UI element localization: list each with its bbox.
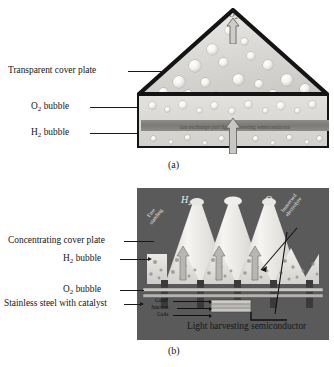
figure-container: O2 ion exchange part light harvesting se… [0, 0, 334, 367]
bubble [317, 136, 322, 141]
leader-junction [177, 308, 209, 309]
bubble [185, 135, 190, 140]
bubble [245, 101, 252, 108]
panel-b: H2 O2 Free standing Immersed electrolyte… [137, 188, 329, 340]
label-junction: Junction [151, 305, 168, 310]
bubble [151, 136, 156, 141]
bubble [277, 102, 285, 110]
caption-panel-a: (a) [168, 159, 179, 170]
leader-h2-bubble-b [120, 259, 148, 260]
leader-stainless-steel-with-catalyst [124, 304, 140, 305]
label-concentrating-cover-plate: Concentrating cover plate [8, 236, 105, 245]
bubble [179, 101, 187, 109]
leader-gaas [173, 315, 209, 316]
label-gaas: GaAs [157, 312, 169, 317]
bubble [305, 140, 309, 144]
label-h2-bubble-a: H2 bubble [31, 128, 69, 139]
panel-a-triangle-cover: O2 [137, 8, 329, 98]
panel-a: O2 ion exchange part light harvesting se… [137, 8, 329, 148]
bubble [271, 141, 275, 145]
panel-b-o2-gas-label: O2 [265, 194, 276, 207]
leader-concentrating-cover-plate [124, 241, 154, 242]
label-light-harvesting-semiconductor: Light harvesting semiconductor [187, 322, 306, 331]
bubble [309, 101, 316, 108]
caption-panel-b: (b) [168, 345, 180, 356]
bubble [165, 107, 170, 112]
panel-b-inner: H2 O2 Free standing Immersed electrolyte… [137, 188, 329, 340]
leader-o2-bubble-b [120, 290, 144, 291]
label-gainp: GaInP [155, 298, 168, 303]
bubble [287, 135, 292, 140]
panel-b-h2-gas-label: H2 [181, 194, 192, 207]
triangle-outline [137, 8, 329, 98]
label-stainless-steel-with-catalyst: Stainless steel with catalyst [4, 299, 107, 308]
bubble [211, 102, 218, 109]
leader-gainp [173, 301, 209, 302]
panel-b-graphic [137, 188, 329, 340]
bubble [295, 108, 300, 113]
leader-o2-bubble-a [90, 107, 137, 108]
label-transparent-cover-plate: Transparent cover plate [8, 66, 96, 75]
bubble [149, 102, 156, 109]
bubble [169, 140, 173, 144]
panel-a-inlet-arrow [225, 118, 241, 154]
label-h2-bubble-b: H2 bubble [63, 254, 101, 265]
leader-h2-bubble-a [90, 133, 137, 134]
label-o2-bubble-b: O2 bubble [63, 285, 101, 296]
bubble [229, 108, 235, 114]
bubble [203, 141, 207, 145]
bubble [197, 108, 202, 113]
bubble [253, 136, 258, 141]
bubble [263, 108, 268, 113]
label-o2-bubble-a: O2 bubble [31, 102, 69, 113]
leader-transparent-cover-plate [128, 71, 164, 72]
bubble [219, 136, 224, 141]
